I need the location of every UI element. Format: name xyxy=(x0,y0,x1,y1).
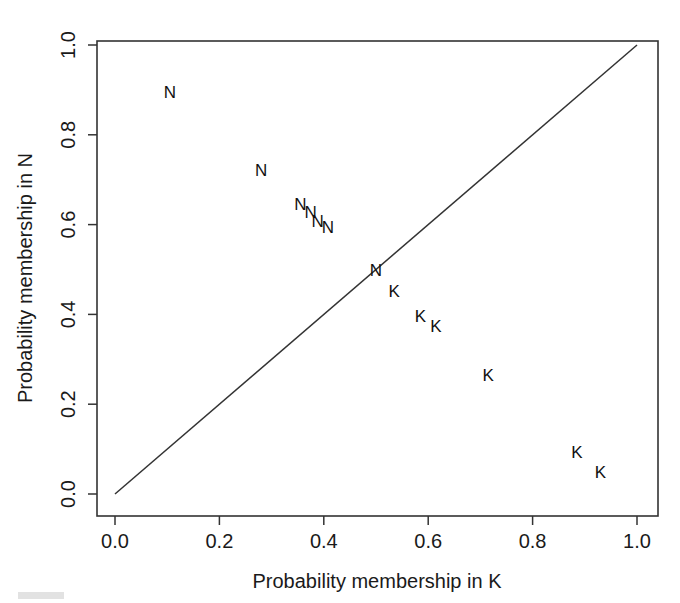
data-point-k: K xyxy=(389,282,401,301)
x-axis-title: Probability membership in K xyxy=(253,570,503,592)
y-tick-label: 0.8 xyxy=(57,121,79,149)
y-tick-label: 1.0 xyxy=(57,31,79,59)
plot-canvas: 0.00.20.40.60.81.0 0.00.20.40.60.81.0 NN… xyxy=(0,0,680,603)
x-tick-label: 0.0 xyxy=(101,530,129,552)
data-points-layer: NNNNNNNKKKKKK xyxy=(164,83,607,482)
data-point-n: N xyxy=(322,218,334,237)
data-point-n: N xyxy=(255,161,267,180)
data-point-n: N xyxy=(370,261,382,280)
y-tick-label: 0.4 xyxy=(57,300,79,328)
data-point-n: N xyxy=(164,83,176,102)
y-axis-title: Probability membership in N xyxy=(14,153,36,403)
x-tick-label: 0.4 xyxy=(310,530,338,552)
data-point-k: K xyxy=(595,463,607,482)
scan-artifact xyxy=(18,592,64,599)
data-point-k: K xyxy=(571,443,583,462)
x-axis-ticks: 0.00.20.40.60.81.0 xyxy=(101,516,651,552)
y-axis-ticks: 0.00.20.40.60.81.0 xyxy=(57,31,97,508)
data-point-k: K xyxy=(483,366,495,385)
y-tick-label: 0.2 xyxy=(57,390,79,418)
x-tick-label: 0.8 xyxy=(519,530,547,552)
y-tick-label: 0.6 xyxy=(57,211,79,239)
y-tick-label: 0.0 xyxy=(57,480,79,508)
x-tick-label: 1.0 xyxy=(623,530,651,552)
data-point-k: K xyxy=(430,317,442,336)
data-point-k: K xyxy=(415,307,427,326)
scatter-plot-figure: 0.00.20.40.60.81.0 0.00.20.40.60.81.0 NN… xyxy=(0,0,680,603)
x-tick-label: 0.6 xyxy=(414,530,442,552)
x-tick-label: 0.2 xyxy=(205,530,233,552)
